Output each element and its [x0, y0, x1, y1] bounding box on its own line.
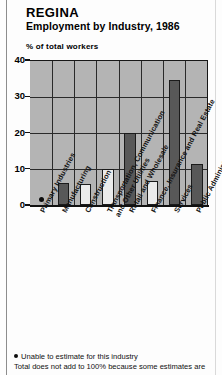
y-axis-tick-label: 20 [1, 127, 25, 138]
chart-figure: REGINA Employment by Industry, 1986 % of… [0, 0, 222, 375]
chart-subtitle: Employment by Industry, 1986 [26, 20, 180, 32]
x-axis-category-labels: Primary IndustriesManufacturingConstruct… [0, 206, 222, 336]
footnotes: Unable to estimate for this industry Tot… [14, 352, 219, 372]
chart-title: REGINA [26, 6, 79, 19]
footnote-line-1: Unable to estimate for this industry [14, 352, 219, 362]
bullet-dot-icon [14, 354, 18, 358]
y-axis-tick-label: 30 [1, 90, 25, 101]
y-axis-tick-label: 10 [1, 163, 25, 174]
footnote-line-1-text: Unable to estimate for this industry [21, 352, 138, 361]
footnote-line-2: Total does not add to 100% because some … [14, 362, 219, 372]
y-axis-caption: % of total workers [26, 42, 99, 51]
y-axis-tick-label: 40 [1, 54, 25, 65]
